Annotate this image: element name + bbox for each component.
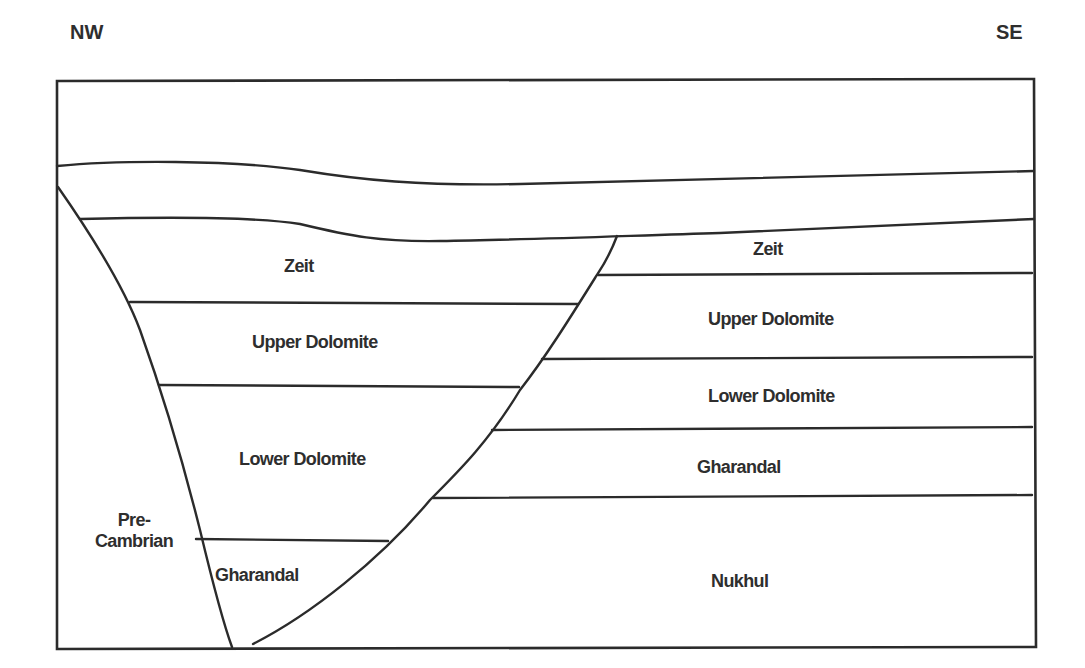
graben-layer-upper-dolomite: Upper Dolomite bbox=[252, 332, 378, 353]
western-fault bbox=[58, 187, 232, 647]
direction-label-nw: NW bbox=[70, 21, 103, 44]
graben-layer-zeit: Zeit bbox=[284, 256, 314, 277]
se-layer-zeit: Zeit bbox=[753, 239, 783, 260]
section-frame bbox=[57, 79, 1036, 649]
se-layer-lower-dolomite: Lower Dolomite bbox=[708, 386, 835, 407]
surface-line-base bbox=[80, 218, 1034, 242]
cross-section-diagram bbox=[0, 0, 1085, 668]
se-horizon-zeit-base bbox=[598, 273, 1032, 275]
se-horizon-lower-dolomite-base bbox=[492, 427, 1032, 430]
se-layer-upper-dolomite: Upper Dolomite bbox=[708, 309, 834, 330]
graben-horizon-lower-dolomite-base bbox=[196, 539, 388, 541]
graben-horizon-upper-dolomite-base bbox=[159, 385, 519, 387]
surface-line-top bbox=[57, 162, 1034, 184]
graben-layer-gharandal: Gharandal bbox=[215, 565, 299, 586]
footwall-label-line1: Pre- bbox=[80, 510, 188, 531]
se-horizon-gharandal-base bbox=[433, 495, 1032, 498]
se-layer-nukhul: Nukhul bbox=[711, 571, 768, 592]
graben-layer-lower-dolomite: Lower Dolomite bbox=[239, 449, 366, 470]
graben-horizon-zeit-base bbox=[130, 302, 578, 304]
se-horizon-upper-dolomite-base bbox=[542, 357, 1032, 359]
footwall-label-pre-cambrian: Pre- Cambrian bbox=[80, 510, 188, 551]
se-layer-gharandal: Gharandal bbox=[697, 457, 781, 478]
footwall-label-line2: Cambrian bbox=[80, 531, 188, 552]
eastern-fault bbox=[253, 236, 617, 644]
direction-label-se: SE bbox=[996, 21, 1023, 44]
